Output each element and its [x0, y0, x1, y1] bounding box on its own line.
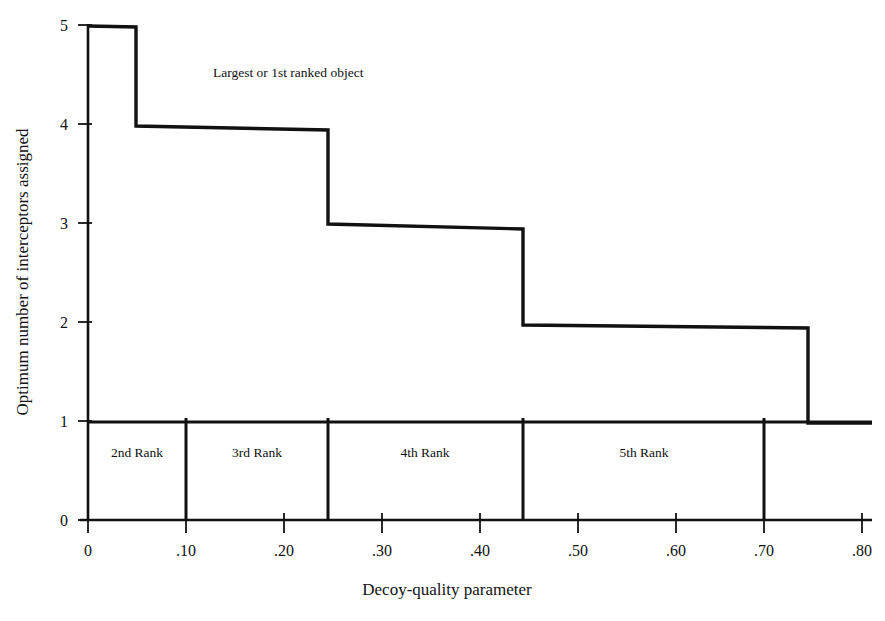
rank-label-4th: 4th Rank	[400, 445, 449, 460]
x-tick-label-20: .20	[274, 542, 294, 559]
step-chart-svg: 5 4 3 2 1 0 0 .10 .20 .30 .40 .50	[0, 0, 885, 621]
y-tick-label-5: 5	[60, 17, 68, 34]
y-tick-label-0: 0	[60, 512, 68, 529]
x-tick-label-0: 0	[84, 542, 92, 559]
x-axis-tick-labels: 0 .10 .20 .30 .40 .50 .60 .70 .80	[84, 542, 872, 559]
x-tick-label-50: .50	[568, 542, 588, 559]
y-tick-label-1: 1	[60, 413, 68, 430]
x-axis-ticks	[88, 513, 862, 533]
y-tick-label-2: 2	[60, 314, 68, 331]
x-axis-title: Decoy-quality parameter	[362, 580, 532, 599]
rank-band-labels: 2nd Rank 3rd Rank 4th Rank 5th Rank	[111, 445, 669, 460]
chart-figure: 5 4 3 2 1 0 0 .10 .20 .30 .40 .50	[0, 0, 885, 621]
rank-band-dividers	[186, 418, 764, 521]
y-axis-title: Optimum number of interceptors assigned	[13, 128, 32, 416]
x-tick-label-40: .40	[470, 542, 490, 559]
step-curve-path	[88, 26, 872, 423]
y-tick-label-3: 3	[60, 215, 68, 232]
rank-label-5th: 5th Rank	[619, 445, 668, 460]
curve-annotation-label: Largest or 1st ranked object	[213, 65, 364, 80]
x-tick-label-60: .60	[666, 542, 686, 559]
y-tick-label-4: 4	[60, 116, 68, 133]
rank-label-2nd: 2nd Rank	[111, 445, 163, 460]
x-tick-label-30: .30	[372, 542, 392, 559]
y-axis-tick-labels: 5 4 3 2 1 0	[60, 17, 68, 529]
x-tick-label-70: .70	[754, 542, 774, 559]
x-tick-label-80: .80	[852, 542, 872, 559]
y-axis-ticks	[78, 25, 92, 520]
rank-label-3rd: 3rd Rank	[232, 445, 282, 460]
x-tick-label-10: .10	[176, 542, 196, 559]
